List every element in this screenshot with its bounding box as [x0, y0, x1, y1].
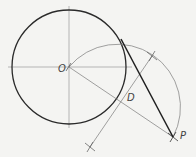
- bisector-mark-lower: [85, 142, 95, 152]
- label-O: O: [58, 64, 66, 74]
- perpendicular-bisector: [90, 56, 152, 147]
- tangent-line: [121, 39, 173, 137]
- label-P: P: [180, 131, 186, 141]
- tangent-construction-diagram: O D P: [0, 0, 196, 157]
- diagram-canvas: [0, 0, 196, 157]
- label-D: D: [127, 93, 135, 103]
